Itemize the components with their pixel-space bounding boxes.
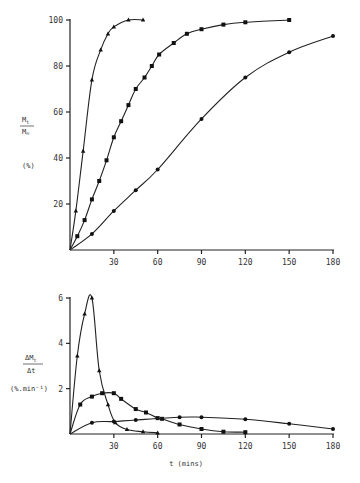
- circle-marker: [112, 420, 116, 424]
- square-marker: [157, 53, 161, 57]
- x-tick-label: 90: [197, 258, 207, 267]
- x-tick-label: 150: [282, 442, 297, 451]
- triangle-marker: [90, 77, 94, 81]
- y-tick-label: 20: [53, 200, 63, 209]
- x-tick-label: 120: [238, 442, 253, 451]
- triangle-marker: [74, 209, 78, 213]
- triangle-marker: [97, 368, 101, 372]
- circle-marker: [156, 168, 160, 172]
- y-tick-label: 6: [58, 294, 63, 303]
- square-marker: [243, 20, 247, 24]
- x-tick-label: 180: [326, 258, 341, 267]
- top-y-denominator: M∞: [22, 128, 29, 136]
- top-y-numerator: Mt: [22, 116, 29, 125]
- x-tick-label: 30: [109, 258, 119, 267]
- y-tick-label: 2: [58, 385, 63, 394]
- square-marker: [100, 391, 104, 395]
- circle-marker: [243, 76, 247, 80]
- square-marker: [221, 23, 225, 27]
- x-tick-label: 90: [197, 442, 207, 451]
- bottom-y-unit: (%.min⁻¹): [10, 385, 48, 393]
- bottom-axes: 306090120150180246: [58, 294, 340, 451]
- series-curve-circles: [70, 417, 333, 434]
- square-marker: [134, 407, 138, 411]
- series-curve-squares: [70, 20, 289, 250]
- top-axes: 30609012015018020406080100: [49, 16, 341, 267]
- y-tick-label: 4: [58, 339, 63, 348]
- circle-marker: [200, 117, 204, 121]
- bottom-y-numerator: ΔMt: [25, 354, 36, 363]
- square-marker: [287, 18, 291, 22]
- series-curve-squares: [70, 393, 245, 434]
- square-marker: [97, 179, 101, 183]
- square-marker: [112, 135, 116, 139]
- x-tick-label: 150: [282, 258, 297, 267]
- y-tick-label: 80: [53, 62, 63, 71]
- square-marker: [105, 158, 109, 162]
- square-marker: [243, 430, 247, 434]
- circle-marker: [178, 415, 182, 419]
- x-tick-label: 60: [153, 258, 163, 267]
- circle-marker: [134, 188, 138, 192]
- x-tick-label: 180: [326, 442, 341, 451]
- x-tick-label: 120: [238, 258, 253, 267]
- circle-marker: [287, 50, 291, 54]
- circle-marker: [243, 417, 247, 421]
- triangle-marker: [98, 48, 102, 52]
- square-marker: [75, 234, 79, 238]
- y-tick-label: 100: [49, 16, 64, 25]
- square-marker: [90, 197, 94, 201]
- circle-marker: [331, 34, 335, 38]
- cumulative-release-chart: 30609012015018020406080100 Mt M∞ (%): [20, 16, 340, 267]
- square-marker: [150, 64, 154, 68]
- release-kinetics-figure: 30609012015018020406080100 Mt M∞ (%) 306…: [0, 0, 360, 483]
- top-y-axis-label: Mt M∞ (%): [20, 116, 35, 170]
- square-marker: [178, 422, 182, 426]
- triangle-marker: [90, 296, 94, 300]
- triangle-marker: [75, 353, 79, 357]
- circle-marker: [331, 427, 335, 431]
- square-marker: [144, 410, 148, 414]
- square-marker: [172, 41, 176, 45]
- y-tick-label: 40: [53, 154, 63, 163]
- bottom-y-axis-label: ΔMt Δt (%.min⁻¹): [10, 354, 48, 393]
- bottom-y-denominator: Δt: [27, 367, 35, 375]
- square-marker: [200, 427, 204, 431]
- x-tick-label: 30: [109, 442, 119, 451]
- y-tick-label: 60: [53, 108, 63, 117]
- circle-marker: [134, 418, 138, 422]
- bottom-series-group: [70, 295, 335, 435]
- triangle-marker: [82, 311, 86, 315]
- circle-marker: [112, 209, 116, 213]
- series-curve-circles: [70, 36, 333, 250]
- circle-marker: [287, 422, 291, 426]
- square-marker: [83, 218, 87, 222]
- square-marker: [143, 76, 147, 80]
- square-marker: [119, 397, 123, 401]
- circle-marker: [90, 232, 94, 236]
- square-marker: [119, 119, 123, 123]
- square-marker: [200, 27, 204, 31]
- top-series-group: [70, 18, 335, 250]
- square-marker: [112, 391, 116, 395]
- top-y-unit: (%): [22, 162, 35, 170]
- triangle-marker: [81, 149, 85, 153]
- circle-marker: [200, 415, 204, 419]
- square-marker: [78, 403, 82, 407]
- series-curve-triangles: [70, 19, 143, 250]
- square-marker: [134, 87, 138, 91]
- release-rate-chart: 306090120150180246 ΔMt Δt (%.min⁻¹) t (m…: [10, 294, 340, 468]
- triangle-marker: [106, 402, 110, 406]
- x-axis-label: t (mins): [169, 460, 203, 468]
- square-marker: [126, 103, 130, 107]
- x-tick-label: 60: [153, 442, 163, 451]
- square-marker: [185, 32, 189, 36]
- circle-marker: [90, 421, 94, 425]
- square-marker: [221, 430, 225, 434]
- square-marker: [90, 395, 94, 399]
